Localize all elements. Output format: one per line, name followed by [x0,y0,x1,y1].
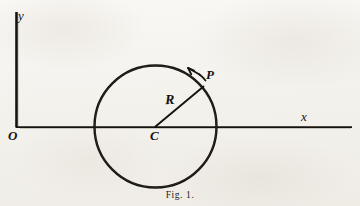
origin-label: O [8,129,17,142]
figure-caption: Fig. 1. [0,190,360,200]
x-axis-label: x [301,110,307,123]
radius-segment [156,87,204,127]
circle-center-label: C [150,129,159,142]
point-p-label: P [206,68,214,81]
figure-container: y x O C R P Fig. 1. [0,0,360,206]
direction-arrowhead-icon [188,68,199,75]
radius-label: R [165,93,175,107]
direction-arrow-arc [200,75,206,81]
y-axis-label: y [18,9,24,22]
diagram-canvas [0,0,360,206]
